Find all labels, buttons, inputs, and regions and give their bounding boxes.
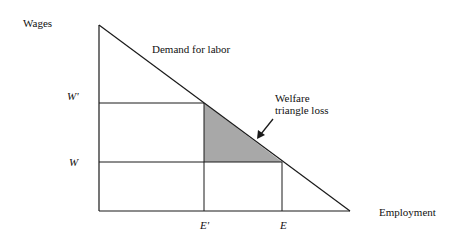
welfare-loss-label-line1: Welfare: [275, 92, 328, 104]
y-axis-label: Wages: [23, 17, 52, 29]
w-tick-label: W: [69, 156, 78, 168]
demand-curve-label: Demand for labor: [152, 43, 230, 55]
x-axis-label: Employment: [379, 206, 436, 218]
welfare-loss-label: Welfare triangle loss: [275, 92, 328, 116]
w-prime-tick-label: W': [67, 90, 79, 102]
welfare-loss-label-line2: triangle loss: [275, 104, 328, 116]
annotation-arrow-shaft: [261, 119, 273, 134]
e-tick-label: E: [280, 219, 287, 231]
e-prime-tick-label: E': [200, 219, 209, 231]
